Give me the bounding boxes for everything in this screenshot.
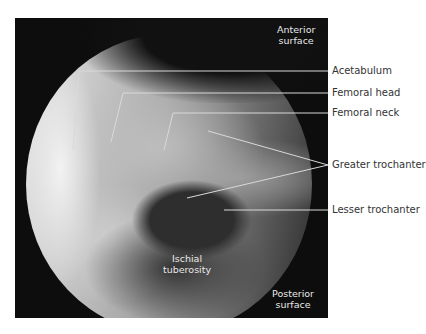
femoral-neck-leader (164, 113, 328, 150)
greater-trochanter-leader-lower (187, 165, 328, 198)
acetabulum-label: Acetabulum (332, 65, 392, 77)
greater-trochanter-label: Greater trochanter (332, 159, 426, 171)
acetabulum-leader (73, 71, 328, 150)
lesser-trochanter-label: Lesser trochanter (332, 204, 420, 216)
femoral-head-label: Femoral head (332, 87, 400, 99)
femoral-neck-label: Femoral neck (332, 107, 399, 119)
greater-trochanter-leader-upper (208, 131, 328, 165)
